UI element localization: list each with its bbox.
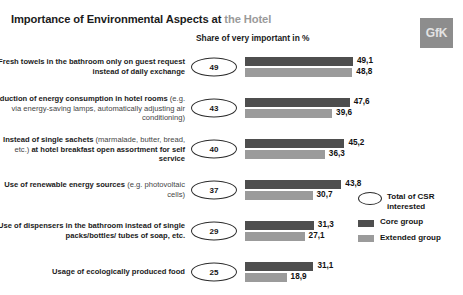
chart-row: Usage of ecologically produced food2531,… (0, 252, 463, 292)
legend-item-total: Total of CSR interested (358, 192, 463, 211)
bar-value-ext: 30,7 (317, 190, 333, 199)
legend-label-extended: Extended group (380, 233, 441, 243)
oval-icon (358, 192, 382, 205)
row-label: Reduction of energy consumption in hotel… (0, 94, 185, 123)
row-label: Fresh towels in the bathroom only on gue… (0, 57, 185, 76)
bar-core (245, 180, 341, 189)
bar-group: 47,639,6 (245, 98, 460, 118)
swatch-icon-extended (358, 235, 374, 242)
bar-value-ext: 48,8 (356, 67, 372, 76)
total-bubble: 29 (191, 222, 237, 241)
bar-line-core: 49,1 (245, 57, 460, 66)
bar-core (245, 57, 353, 66)
bar-ext (245, 191, 313, 200)
page-title-accent: the Hotel (224, 13, 271, 25)
bar-ext (245, 273, 287, 282)
bar-core (245, 221, 314, 230)
bar-ext (245, 109, 332, 118)
bar-value-core: 43,8 (345, 179, 361, 188)
bar-line-core: 31,1 (245, 262, 460, 271)
gfk-logo: GfK (420, 18, 453, 48)
bar-ext (245, 68, 352, 77)
bar-ext (245, 150, 325, 159)
chart-row: Instead of single sachets (marmalade, bu… (0, 129, 463, 169)
page-title: Importance of Environmental Aspects at t… (11, 13, 271, 25)
legend-label-core: Core group (380, 217, 423, 227)
row-label: Use of renewable energy sources (e.g. ph… (0, 180, 185, 199)
bar-value-ext: 27,1 (309, 231, 325, 240)
bar-group: 49,148,8 (245, 57, 460, 77)
swatch-icon-core (358, 220, 374, 227)
total-bubble: 49 (191, 58, 237, 77)
page-title-main: Importance of Environmental Aspects at (11, 13, 224, 25)
bar-line-ext: 18,9 (245, 273, 460, 282)
row-label: Usage of ecologically produced food (0, 267, 185, 277)
legend-label-total: Total of CSR interested (387, 192, 463, 211)
bar-core (245, 262, 313, 271)
bar-line-core: 47,6 (245, 98, 460, 107)
bar-ext (245, 232, 305, 241)
bar-line-ext: 39,6 (245, 109, 460, 118)
bar-value-ext: 18,9 (291, 272, 307, 281)
bar-value-core: 45,2 (348, 138, 364, 147)
chart-subtitle: Share of very important in % (196, 33, 310, 43)
chart-row: Reduction of energy consumption in hotel… (0, 88, 463, 128)
bar-core (245, 98, 350, 107)
total-bubble: 43 (191, 99, 237, 118)
bar-line-core: 45,2 (245, 139, 460, 148)
bar-line-ext: 48,8 (245, 68, 460, 77)
total-bubble: 40 (191, 140, 237, 159)
bar-line-core: 43,8 (245, 180, 460, 189)
row-label: Instead of single sachets (marmalade, bu… (0, 135, 185, 164)
bar-core (245, 139, 344, 148)
bar-group: 45,236,3 (245, 139, 460, 159)
bar-value-core: 31,3 (318, 220, 334, 229)
legend-item-extended: Extended group (358, 233, 463, 243)
row-label: Use of dispensers in the bathroom instea… (0, 221, 185, 240)
total-bubble: 25 (191, 263, 237, 282)
bar-value-core: 49,1 (357, 56, 373, 65)
legend-item-core: Core group (358, 217, 463, 227)
bar-value-ext: 36,3 (329, 149, 345, 158)
bar-line-ext: 36,3 (245, 150, 460, 159)
chart-row: Fresh towels in the bathroom only on gue… (0, 47, 463, 87)
bar-value-core: 31,1 (317, 261, 333, 270)
total-bubble: 37 (191, 181, 237, 200)
bar-value-core: 47,6 (354, 97, 370, 106)
chart-rows: Fresh towels in the bathroom only on gue… (0, 47, 463, 293)
chart-legend: Total of CSR interested Core group Exten… (358, 192, 463, 248)
bar-group: 31,118,9 (245, 262, 460, 282)
bar-value-ext: 39,6 (336, 108, 352, 117)
